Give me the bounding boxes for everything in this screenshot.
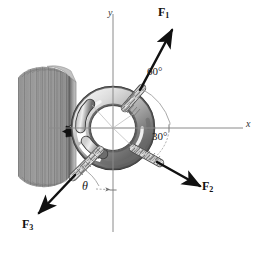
f2-arrow (157, 162, 200, 186)
force-label-f2: F2 (202, 180, 213, 194)
force-label-f1-subscript: 1 (165, 11, 169, 20)
figure-canvas (0, 0, 265, 253)
rope-f2 (133, 145, 200, 186)
angle-label-30: 30° (152, 131, 167, 142)
angle-label-60: 60° (147, 66, 162, 77)
x-axis-label: x (246, 119, 250, 129)
force-label-f3-subscript: 3 (29, 223, 33, 232)
statics-figure: y x F1 F2 F3 60° 30° θ (0, 0, 265, 253)
theta-leader (96, 189, 110, 190)
angle-label-theta: θ (82, 180, 88, 192)
f1-arrow (140, 30, 172, 90)
force-label-f2-subscript: 2 (209, 185, 213, 194)
force-label-f3: F3 (22, 218, 33, 232)
force-label-f1: F1 (158, 6, 169, 20)
y-axis-label: y (108, 8, 112, 18)
